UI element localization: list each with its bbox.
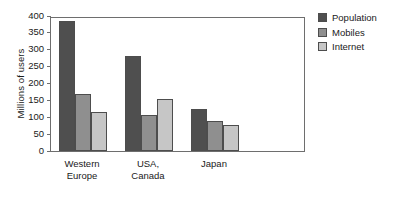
legend-label: Mobiles — [332, 27, 365, 38]
y-tick-mark — [47, 83, 51, 84]
y-tick-label: 50 — [33, 128, 44, 139]
chart-legend: PopulationMobilesInternet — [318, 11, 398, 55]
legend-swatch — [318, 42, 327, 51]
bar — [75, 94, 91, 151]
legend-item[interactable]: Internet — [318, 40, 398, 53]
y-tick-label: 0 — [39, 145, 44, 156]
plot-inner: 050100150200250300350400 — [51, 18, 304, 151]
y-tick-label: 400 — [28, 10, 44, 21]
bar — [59, 21, 75, 151]
y-axis-title: Millions of users — [15, 14, 26, 154]
legend-item[interactable]: Population — [318, 11, 398, 24]
y-tick-label: 200 — [28, 77, 44, 88]
y-tick-mark — [47, 117, 51, 118]
y-tick-label: 150 — [28, 94, 44, 105]
x-axis-category-label: Japan — [174, 158, 254, 170]
plot-area: 050100150200250300350400 — [50, 17, 305, 152]
bar — [91, 112, 107, 151]
bar — [207, 121, 223, 151]
bar — [141, 115, 157, 151]
y-tick-label: 100 — [28, 111, 44, 122]
bar — [191, 109, 207, 151]
y-tick-mark — [47, 49, 51, 50]
y-tick-mark — [47, 32, 51, 33]
y-tick-label: 350 — [28, 26, 44, 37]
legend-label: Population — [332, 12, 377, 23]
y-tick-label: 250 — [28, 60, 44, 71]
y-tick-mark — [47, 16, 51, 17]
y-tick-label: 300 — [28, 43, 44, 54]
bar — [125, 56, 141, 152]
bar — [157, 99, 173, 151]
y-tick-mark — [47, 100, 51, 101]
bar — [223, 125, 239, 151]
legend-swatch — [318, 13, 327, 22]
legend-swatch — [318, 28, 327, 37]
y-tick-mark — [47, 134, 51, 135]
y-tick-mark — [47, 151, 51, 152]
legend-label: Internet — [332, 41, 364, 52]
legend-item[interactable]: Mobiles — [318, 26, 398, 39]
y-tick-mark — [47, 66, 51, 67]
bar-chart-figure: Millions of users 0501001502002503003504… — [0, 0, 399, 200]
